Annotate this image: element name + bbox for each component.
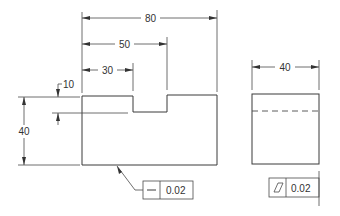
dimension-label-40: 40 — [18, 126, 30, 137]
fcf-tolerance: 0.02 — [166, 185, 186, 196]
arrowhead — [56, 113, 60, 121]
dimension-label-50: 50 — [119, 39, 131, 50]
dimension-label-10: 10 — [63, 79, 75, 90]
side-feature-control-frame: 0.02 — [269, 171, 319, 206]
front-feature-control-frame: 0.02 — [117, 166, 193, 199]
arrowhead — [82, 16, 90, 20]
arrowhead — [159, 42, 167, 46]
arrowhead — [117, 166, 122, 174]
dimension-40-height: 40 — [14, 97, 80, 165]
dimension-30: 30 — [82, 63, 133, 91]
side-view — [252, 94, 319, 164]
technical-drawing: 80 50 30 10 40 — [0, 0, 340, 216]
arrowhead — [56, 89, 60, 97]
front-view — [82, 95, 217, 165]
arrowhead — [209, 16, 217, 20]
arrowhead — [252, 65, 260, 69]
dimension-label-30: 30 — [102, 65, 114, 76]
leader-line — [117, 166, 143, 190]
dimension-40-side: 40 — [252, 60, 319, 90]
arrowhead — [82, 68, 90, 72]
arrowhead — [311, 65, 319, 69]
side-view-outline — [252, 94, 319, 164]
dimension-50: 50 — [82, 37, 167, 90]
dimension-80: 80 — [82, 10, 217, 93]
arrowhead — [125, 68, 133, 72]
dimension-10: 10 — [52, 79, 128, 125]
dimension-label-80: 80 — [145, 13, 157, 24]
fcf-tolerance: 0.02 — [291, 183, 311, 194]
dimension-label-40-side: 40 — [279, 62, 291, 73]
arrowhead — [82, 42, 90, 46]
arrowhead — [22, 157, 26, 165]
arrowhead — [22, 97, 26, 105]
front-view-outline — [82, 95, 217, 165]
flatness-icon — [274, 183, 283, 192]
